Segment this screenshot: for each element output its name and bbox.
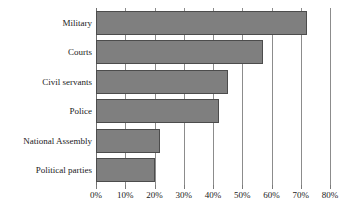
x-tick-mark-40 [213,185,214,189]
x-axis-labels: 0%10%20%30%40%50%60%70%80% [96,190,330,204]
bar [96,40,263,64]
y-axis-label: National Assembly [0,129,92,153]
bar [96,70,228,94]
bar-row [96,158,330,182]
y-axis-label: Military [0,11,92,35]
x-axis-tick-label: 70% [293,190,310,200]
x-tick-mark-10 [125,185,126,189]
y-axis-label: Police [0,99,92,123]
x-tick-mark-30 [184,185,185,189]
x-tick-mark-0 [96,185,97,189]
x-tick-mark-70 [301,185,302,189]
x-tick-mark-20 [155,185,156,189]
y-axis-label: Courts [0,40,92,64]
x-axis-tick-label: 30% [176,190,193,200]
x-axis-tick-label: 40% [205,190,222,200]
x-tick-mark-60 [272,185,273,189]
y-axis-label: Political parties [0,158,92,182]
bar [96,11,307,35]
bar-row [96,129,330,153]
x-axis-tick-label: 0% [90,190,102,200]
x-tick-mark-50 [242,185,243,189]
bar-row [96,11,330,35]
bar-row [96,40,330,64]
bar-chart: MilitaryCourtsCivil servantsPoliceNation… [0,0,361,216]
bar-row [96,70,330,94]
x-axis-tick-label: 80% [322,190,339,200]
gridline-80 [330,8,331,185]
bar [96,129,160,153]
bar [96,158,155,182]
plot-area [96,8,330,185]
x-axis-tick-label: 50% [234,190,251,200]
x-axis-tick-label: 10% [117,190,134,200]
bar [96,99,219,123]
y-axis-labels: MilitaryCourtsCivil servantsPoliceNation… [0,8,92,185]
x-tick-mark-80 [330,185,331,189]
x-axis-tick-label: 20% [146,190,163,200]
y-axis-label: Civil servants [0,70,92,94]
x-axis-tick-label: 60% [263,190,280,200]
bar-row [96,99,330,123]
